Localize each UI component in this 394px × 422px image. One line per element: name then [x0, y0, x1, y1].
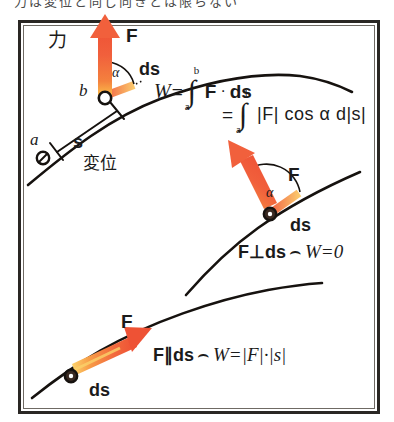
angle-label-1: α	[112, 66, 119, 80]
force-label-2: F	[288, 165, 300, 184]
formula2-equals: =	[222, 105, 233, 124]
tangent-label-3: ds	[89, 381, 110, 399]
relation-perpendicular: F⊥ds	[238, 243, 286, 261]
relation-parallel: F∥ds	[153, 346, 194, 364]
angle-label-2: α	[266, 186, 273, 200]
force-word-jp-label: 力	[48, 31, 67, 50]
point-marker-3-inner	[69, 374, 73, 378]
point-a-label: a	[30, 131, 39, 148]
point-b-marker	[99, 92, 111, 104]
implies-symbol-3: ⌢	[197, 345, 210, 364]
figure-canvas: 力 F ds α b a s 変位 W = ∫ b a F · ds = ∫ b…	[0, 0, 394, 422]
formula2-upper-limit: b	[245, 88, 251, 99]
formula2-body: |F| cos α d|s|	[257, 105, 366, 123]
formula1-lhs: W	[154, 81, 171, 101]
displacement-word-jp-label: 変位	[83, 155, 117, 172]
result-parallel: W=|F|·|s|	[213, 345, 286, 364]
point-a-marker	[37, 152, 49, 164]
formula2-lower-limit: a	[236, 124, 241, 135]
formula1-force-term: F	[205, 82, 217, 101]
formula2-integral-group: ∫ b a	[236, 97, 252, 131]
formula1-integral-group: ∫ b a	[185, 74, 201, 108]
work-formula-line-2: = ∫ b a |F| cos α d|s|	[222, 97, 366, 131]
point-marker-2-inner	[268, 212, 272, 216]
formula1-lower-limit: a	[185, 101, 190, 112]
formula1-equals: =	[172, 82, 183, 101]
point-b-label: b	[79, 82, 88, 99]
displacement-label-s: s	[73, 133, 83, 151]
force-label-1: F	[126, 26, 138, 45]
perpendicular-relation-line: F⊥ds ⌢ W=0	[238, 242, 343, 261]
parallel-relation-line: F∥ds ⌢ W=|F|·|s|	[153, 345, 286, 364]
implies-symbol-2: ⌢	[289, 242, 302, 261]
result-perpendicular: W=0	[305, 242, 343, 261]
formula1-upper-limit: b	[194, 65, 200, 76]
force-label-3: F	[121, 312, 133, 331]
tangent-label-2: ds	[290, 216, 311, 234]
